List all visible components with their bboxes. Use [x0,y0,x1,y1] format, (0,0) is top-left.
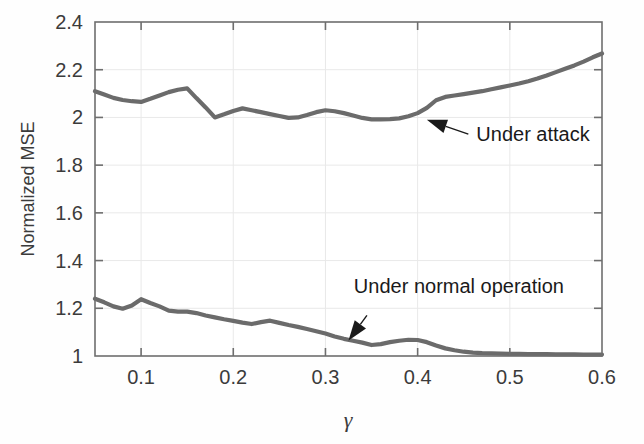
y-axis-title: Normalized MSE [18,121,38,256]
y-tick-label: 1.8 [55,154,83,176]
y-tick-label: 2.4 [55,11,83,33]
x-tick-label: 0.1 [127,366,155,388]
x-tick-label: 0.5 [496,366,524,388]
x-tick-label: 0.2 [219,366,247,388]
y-tick-label: 1.6 [55,202,83,224]
y-tick-label: 1 [72,345,83,367]
x-tick-label: 0.3 [312,366,340,388]
x-tick-label: 0.4 [404,366,432,388]
x-tick-label: 0.6 [588,366,616,388]
plot-background [95,22,602,356]
y-tick-label: 1.2 [55,297,83,319]
y-tick-label: 1.4 [55,250,83,272]
annotation-normal-label: Under normal operation [354,275,564,297]
line-chart: 11.21.41.61.822.22.40.10.20.30.40.50.6 N… [0,0,644,444]
x-axis-title: γ [344,407,354,432]
y-tick-label: 2 [72,106,83,128]
annotation-attack-label: Under attack [476,123,590,145]
y-tick-label: 2.2 [55,59,83,81]
figure-canvas: 11.21.41.61.822.22.40.10.20.30.40.50.6 N… [0,0,644,444]
